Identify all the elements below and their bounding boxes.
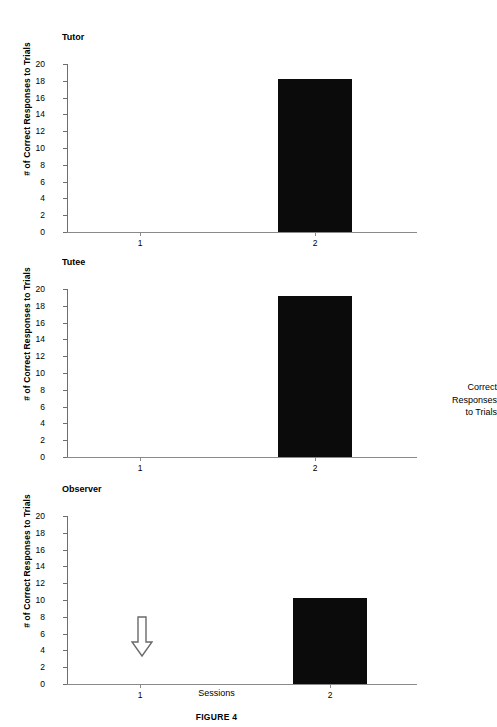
y-tick-label: 16	[5, 319, 45, 328]
y-tick	[63, 684, 67, 685]
y-tick	[63, 165, 67, 166]
y-tick	[63, 356, 67, 357]
y-tick	[63, 215, 67, 216]
plot-area-observer: 20 18 16 14 12 10 8 6 4 2 0 1	[67, 516, 417, 684]
chart-panel-observer: # of Correct Responses to Trials Observe…	[0, 470, 433, 702]
y-tick	[63, 182, 67, 183]
y-tick	[63, 323, 67, 324]
y-tick-label: 10	[5, 144, 45, 153]
annotation-line-2: Responses	[419, 394, 497, 407]
y-tick-label: 6	[5, 178, 45, 187]
bar-session-2	[293, 598, 367, 684]
y-tick	[63, 667, 67, 668]
plot-area-tutee: 20 18 16 14 12 10 8 6 4 2 0 1	[67, 289, 417, 457]
y-tick	[63, 306, 67, 307]
y-tick-label: 4	[5, 646, 45, 655]
y-tick-label: 20	[5, 60, 45, 69]
y-tick-label: 2	[5, 663, 45, 672]
y-tick-label: 0	[5, 453, 45, 462]
y-tick	[63, 81, 67, 82]
y-tick-label: 12	[5, 127, 45, 136]
y-tick	[63, 114, 67, 115]
y-tick	[63, 583, 67, 584]
y-tick	[63, 550, 67, 551]
x-tick	[315, 457, 316, 461]
y-tick-label: 14	[5, 110, 45, 119]
y-tick-label: 10	[5, 596, 45, 605]
y-tick	[63, 198, 67, 199]
down-arrow-annotation-icon	[131, 616, 153, 658]
y-tick-label: 4	[5, 419, 45, 428]
y-tick	[63, 650, 67, 651]
y-tick	[63, 390, 67, 391]
y-tick-label: 6	[5, 630, 45, 639]
y-tick	[63, 634, 67, 635]
y-tick	[63, 423, 67, 424]
y-tick	[63, 566, 67, 567]
chart-title-observer: Observer	[62, 484, 102, 494]
y-tick	[63, 64, 67, 65]
y-tick	[63, 516, 67, 517]
y-tick-label: 10	[5, 369, 45, 378]
y-tick-label: 2	[5, 211, 45, 220]
y-tick	[63, 457, 67, 458]
y-tick	[63, 617, 67, 618]
y-tick-label: 14	[5, 562, 45, 571]
y-axis-line	[67, 516, 68, 685]
chart-panel-tutor: # of Correct Responses to Trials Tutor 2…	[0, 18, 433, 250]
y-tick-label: 12	[5, 352, 45, 361]
x-axis-title: Sessions	[0, 688, 433, 698]
bar-session-2	[278, 296, 352, 457]
y-tick	[63, 131, 67, 132]
y-tick-label: 8	[5, 613, 45, 622]
y-tick	[63, 407, 67, 408]
y-tick	[63, 232, 67, 233]
y-tick-label: 6	[5, 403, 45, 412]
y-tick-label: 8	[5, 386, 45, 395]
x-axis-line	[67, 457, 417, 458]
x-tick	[140, 457, 141, 461]
y-tick-label: 4	[5, 194, 45, 203]
y-tick-label: 18	[5, 529, 45, 538]
x-tick	[315, 232, 316, 236]
x-axis-line	[67, 232, 417, 233]
chart-title-tutee: Tutee	[62, 257, 85, 267]
y-tick	[63, 440, 67, 441]
chart-title-tutor: Tutor	[62, 32, 84, 42]
y-tick-label: 16	[5, 94, 45, 103]
annotation-line-3: to Trials	[419, 406, 497, 419]
y-tick	[63, 373, 67, 374]
y-tick-label: 8	[5, 161, 45, 170]
x-axis-line	[67, 684, 417, 685]
annotation-line-1: Correct	[419, 381, 497, 394]
y-tick-label: 18	[5, 77, 45, 86]
y-tick	[63, 600, 67, 601]
bar-session-2	[278, 79, 352, 232]
figure-caption: FIGURE 4	[0, 712, 433, 722]
y-tick-label: 20	[5, 512, 45, 521]
y-tick-label: 0	[5, 228, 45, 237]
x-tick	[140, 232, 141, 236]
bar-annotation-label: Correct Responses to Trials	[419, 381, 497, 419]
y-tick	[63, 148, 67, 149]
y-tick-label: 14	[5, 335, 45, 344]
y-axis-line	[67, 64, 68, 233]
y-tick-label: 20	[5, 285, 45, 294]
y-tick-label: 18	[5, 302, 45, 311]
y-tick-label: 12	[5, 579, 45, 588]
chart-panel-tutee: # of Correct Responses to Trials Tutee 2…	[0, 243, 433, 475]
y-tick	[63, 533, 67, 534]
y-axis-line	[67, 289, 68, 458]
y-tick	[63, 339, 67, 340]
y-tick	[63, 98, 67, 99]
y-tick	[63, 289, 67, 290]
y-tick-label: 2	[5, 436, 45, 445]
y-tick-label: 16	[5, 546, 45, 555]
plot-area-tutor: 20 18 16 14 12 10 8 6 4 2 0 1	[67, 64, 417, 232]
